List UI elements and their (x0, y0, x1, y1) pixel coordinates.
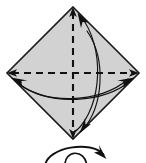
turn-over-symbol (45, 145, 107, 163)
turn-over-outer-arc (45, 147, 104, 163)
origami-diagram-canvas: Origami step: fold square diagonals (val… (0, 0, 146, 163)
turn-over-inner-arc (65, 153, 87, 163)
turn-over-arrowhead-icon (94, 145, 107, 159)
origami-diagram: Origami step: fold square diagonals (val… (0, 0, 146, 163)
